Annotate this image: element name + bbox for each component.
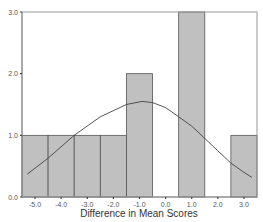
histogram-bar bbox=[126, 74, 152, 197]
y-axis: 0.01.02.03.0 bbox=[8, 9, 22, 201]
x-tick-label: 2.0 bbox=[213, 201, 223, 208]
x-tick-label: -3.0 bbox=[81, 201, 93, 208]
histogram-bar bbox=[74, 135, 100, 197]
x-tick-label: -4.0 bbox=[55, 201, 67, 208]
y-tick-label: 3.0 bbox=[8, 9, 18, 16]
histogram-bar bbox=[48, 135, 74, 197]
histogram-bar bbox=[22, 135, 48, 197]
x-tick-label: 1.0 bbox=[187, 201, 197, 208]
x-axis: -5.0-4.0-3.0-2.0-1.00.01.02.03.0 bbox=[22, 197, 257, 208]
y-tick-label: 0.0 bbox=[8, 194, 18, 201]
histogram-bar bbox=[100, 135, 126, 197]
x-axis-label: Difference in Mean Scores bbox=[80, 208, 198, 219]
y-tick-label: 2.0 bbox=[8, 70, 18, 77]
histogram-bars bbox=[22, 12, 257, 197]
x-tick-label: -2.0 bbox=[107, 201, 119, 208]
y-tick-label: 1.0 bbox=[8, 132, 18, 139]
x-tick-label: -1.0 bbox=[133, 201, 145, 208]
histogram-bar bbox=[179, 12, 205, 197]
x-tick-label: 0.0 bbox=[161, 201, 171, 208]
x-tick-label: 3.0 bbox=[239, 201, 249, 208]
x-tick-label: -5.0 bbox=[29, 201, 41, 208]
histogram-chart: 0.01.02.03.0 -5.0-4.0-3.0-2.0-1.00.01.02… bbox=[0, 0, 263, 222]
